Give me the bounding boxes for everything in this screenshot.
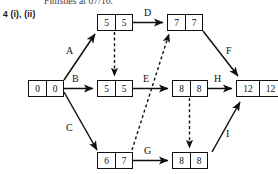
edge-label-E: E (143, 73, 149, 84)
node-end-late: 12 (259, 81, 278, 96)
node-start-early: 0 (29, 81, 46, 96)
edge-label-B: B (72, 73, 79, 84)
dummy-edge-bottomleft-topright (132, 34, 169, 150)
node-mid-right-early: 8 (173, 81, 190, 96)
node-top-right-early: 7 (168, 15, 185, 30)
node-start-late: 0 (46, 81, 63, 96)
node-bottom-left: 6 7 (97, 152, 133, 169)
edge-F-line (203, 31, 238, 76)
node-start: 0 0 (28, 80, 64, 97)
node-mid-center-early: 5 (98, 81, 115, 96)
node-mid-right: 8 8 (172, 80, 208, 97)
edge-label-F: F (226, 45, 232, 56)
node-bottom-left-early: 6 (98, 153, 115, 168)
edge-label-I: I (226, 128, 229, 139)
edge-A-line (64, 34, 95, 80)
node-mid-right-late: 8 (190, 81, 207, 96)
edge-C-line (64, 92, 97, 150)
node-top-left: 5 5 (97, 14, 133, 31)
node-top-left-early: 5 (98, 15, 115, 30)
edge-label-G: G (144, 145, 151, 156)
node-mid-center-late: 5 (115, 81, 132, 96)
node-bottom-right: 8 8 (172, 152, 208, 169)
node-bottom-right-early: 8 (173, 153, 190, 168)
edge-label-D: D (144, 7, 151, 18)
node-end: 12 12 (236, 80, 278, 97)
node-bottom-right-late: 8 (190, 153, 207, 168)
node-end-early: 12 (237, 81, 259, 96)
edge-label-H: H (214, 73, 221, 84)
edge-label-C: C (66, 122, 73, 133)
node-top-right-late: 7 (185, 15, 202, 30)
edge-I-line (212, 102, 240, 152)
network-diagram-figure: Finishes at 07/16. 4 (i), (ii) (0, 0, 278, 174)
node-top-right: 7 7 (167, 14, 203, 31)
node-mid-center: 5 5 (97, 80, 133, 97)
node-bottom-left-late: 7 (115, 153, 132, 168)
node-top-left-late: 5 (115, 15, 132, 30)
edge-label-A: A (66, 45, 73, 56)
